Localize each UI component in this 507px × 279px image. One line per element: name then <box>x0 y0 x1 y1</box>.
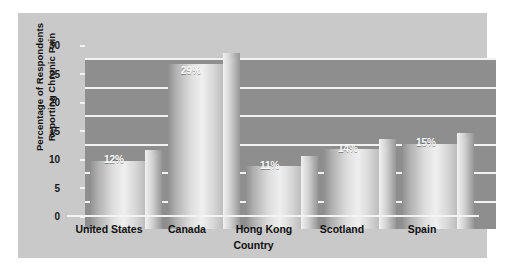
x-label-united-states: United States <box>64 223 154 235</box>
y-tick-mark-10 <box>80 159 85 161</box>
y-tick-label-25: 25 <box>36 70 60 80</box>
data-label-spain: 15% <box>416 137 436 148</box>
y-tick-label-30: 30 <box>36 41 60 51</box>
y-axis-title-line2: Reporting Chronic Pain <box>46 0 58 177</box>
bar-scotland <box>324 149 379 229</box>
y-tick-label-5: 5 <box>36 184 60 194</box>
plot-area: 12% 29% 11% 14% 15% <box>85 58 496 229</box>
gridline-25 <box>85 87 496 89</box>
data-label-canada: 29% <box>181 65 201 76</box>
gridline-20 <box>85 115 496 117</box>
bar-hong-kong <box>246 166 301 229</box>
y-tick-label-0: 0 <box>36 212 60 222</box>
chart-figure: Percentage of Respondents Reporting Chro… <box>0 0 507 279</box>
y-tick-mark-20 <box>80 102 85 104</box>
bar-front-hong-kong <box>246 166 301 229</box>
x-label-hong-kong: Hong Kong <box>221 223 307 235</box>
gridline-30 <box>85 58 496 60</box>
y-tick-mark-15 <box>80 130 85 132</box>
y-tick-label-10: 10 <box>36 155 60 165</box>
bar-side-canada <box>223 53 240 229</box>
y-axis-title: Percentage of Respondents Reporting Chro… <box>34 0 58 177</box>
y-tick-mark-25 <box>80 73 85 75</box>
bar-side-united-states <box>145 150 162 229</box>
data-label-hong-kong: 11% <box>260 160 279 171</box>
x-axis-line <box>67 215 479 217</box>
data-label-united-states: 12% <box>104 154 124 165</box>
bar-front-united-states <box>90 161 145 229</box>
y-tick-mark-30 <box>80 45 85 47</box>
y-tick-label-20: 20 <box>36 98 60 108</box>
y-tick-mark-5 <box>80 187 85 189</box>
bar-side-hong-kong <box>301 156 318 229</box>
x-label-canada: Canada <box>147 223 227 235</box>
bar-united-states <box>90 161 145 229</box>
chart-panel: Percentage of Respondents Reporting Chro… <box>18 13 487 258</box>
x-label-scotland: Scotland <box>302 223 382 235</box>
y-axis-title-line1: Percentage of Respondents <box>34 0 46 177</box>
x-axis-title: Country <box>0 239 507 251</box>
data-label-scotland: 14% <box>338 143 358 154</box>
bar-front-scotland <box>324 149 379 229</box>
bar-canada <box>168 64 223 229</box>
x-label-spain: Spain <box>382 223 462 235</box>
y-tick-label-15: 15 <box>36 127 60 137</box>
bar-front-canada <box>168 64 223 229</box>
